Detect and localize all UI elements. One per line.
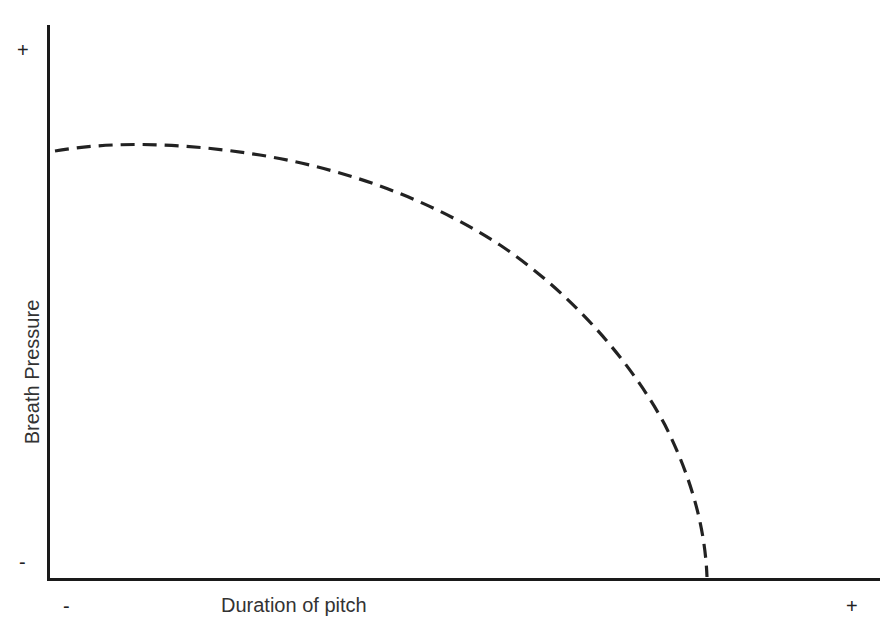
x-axis-label: Duration of pitch	[221, 594, 367, 617]
y-min-tick: -	[19, 552, 26, 572]
y-max-tick: +	[17, 40, 29, 60]
y-axis-label: Breath Pressure	[21, 300, 44, 445]
dashed-curve	[55, 144, 707, 577]
chart-canvas	[0, 0, 893, 629]
x-max-tick: +	[846, 596, 858, 616]
x-min-tick: -	[63, 596, 70, 616]
